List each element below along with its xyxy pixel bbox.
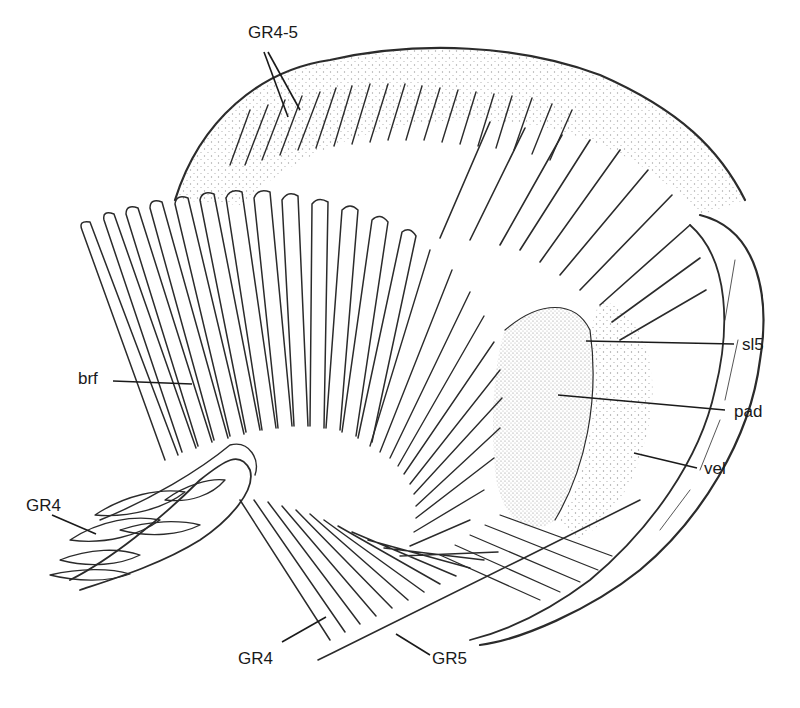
gill-arch-drawing	[0, 0, 800, 708]
label-pad: pad	[734, 403, 762, 420]
left-gill-rakers	[50, 480, 225, 580]
gill-arch-figure: GR4-5 brf GR4 sl5 pad vel GR4 GR5	[0, 0, 800, 708]
branchial-filaments	[81, 191, 502, 546]
label-brf: brf	[78, 370, 98, 387]
label-gr4-bottom: GR4	[238, 650, 273, 667]
label-vel: vel	[704, 460, 726, 477]
label-sl5: sl5	[742, 336, 764, 353]
pad-region	[493, 300, 653, 540]
label-gr4-5: GR4-5	[248, 24, 298, 41]
label-gr4-left: GR4	[26, 497, 61, 514]
label-gr5: GR5	[432, 650, 467, 667]
arch-base	[70, 444, 256, 590]
